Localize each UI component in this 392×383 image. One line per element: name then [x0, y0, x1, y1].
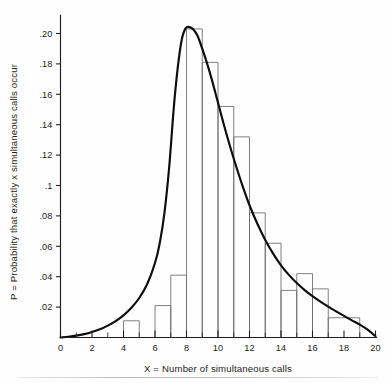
tick-labels-layer: .02.04.06.08.1.12.14.16.18.2002468101214… — [39, 29, 380, 353]
histogram-bar — [218, 106, 234, 337]
y-axis-title: P = Probability that exactly x simultane… — [8, 63, 19, 300]
histogram-bar — [187, 29, 203, 338]
histogram-bar — [265, 243, 281, 337]
x-axis-tick-label: 16 — [307, 343, 317, 353]
histogram-bar — [250, 213, 266, 338]
histogram-bar — [171, 275, 187, 337]
y-axis-tick-label: .20 — [39, 29, 52, 39]
x-axis-title: X = Number of simultaneous calls — [144, 363, 292, 374]
y-axis-tick-label: .16 — [39, 90, 52, 100]
y-axis-tick-label: .02 — [39, 302, 52, 312]
y-axis-tick-label: .08 — [39, 211, 52, 221]
y-axis-tick-label: .1 — [45, 181, 53, 191]
y-axis-tick-label: .04 — [39, 272, 52, 282]
x-axis-tick-label: 18 — [339, 343, 349, 353]
x-axis-tick-label: 10 — [213, 343, 223, 353]
histogram-bar — [313, 289, 329, 338]
chart-figure: .02.04.06.08.1.12.14.16.18.2002468101214… — [0, 0, 392, 383]
histogram-bar — [124, 321, 140, 338]
probability-histogram-chart: .02.04.06.08.1.12.14.16.18.2002468101214… — [0, 0, 392, 383]
page-divider-rule — [18, 377, 378, 378]
histogram-bar — [202, 62, 218, 337]
histogram-bar — [281, 290, 297, 337]
x-axis-tick-label: 0 — [58, 343, 63, 353]
histogram-bar — [155, 306, 171, 338]
x-axis-tick-label: 8 — [184, 343, 189, 353]
y-axis-tick-label: .12 — [39, 150, 52, 160]
x-axis-tick-label: 6 — [152, 343, 157, 353]
x-axis-tick-label: 20 — [370, 343, 380, 353]
y-axis-tick-label: .18 — [39, 59, 52, 69]
x-axis-tick-label: 2 — [89, 343, 94, 353]
x-axis-tick-label: 12 — [244, 343, 254, 353]
y-axis-tick-label: .14 — [39, 120, 52, 130]
x-axis-tick-label: 14 — [276, 343, 286, 353]
x-axis-tick-label: 4 — [121, 343, 126, 353]
y-axis-tick-label: .06 — [39, 242, 52, 252]
histogram-bar — [297, 274, 313, 338]
